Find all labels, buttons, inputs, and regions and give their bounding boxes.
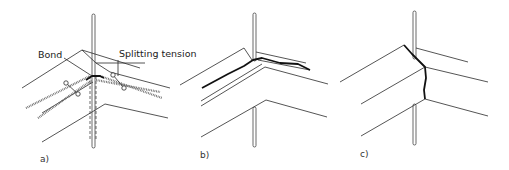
bond-strut-lower: [38, 80, 92, 118]
tie-node-icon: [122, 86, 126, 90]
column-rebar: [92, 14, 95, 148]
beam-bottom-edge: [201, 100, 327, 137]
panel-b: b): [180, 13, 328, 160]
beam-right-edge: [96, 63, 170, 88]
bond-label: Bond: [38, 49, 62, 60]
beam-right-top-edge: [258, 60, 310, 70]
splitting-tension-label: Splitting tension: [119, 48, 197, 59]
beam-back-edge: [416, 48, 468, 62]
beam-top-edge: [340, 45, 404, 82]
beam-bottom-edge: [42, 104, 168, 142]
panel-a: Bond Splitting tension a): [22, 14, 197, 164]
bond-leader-line: [64, 58, 92, 76]
beam-left-lower-edge: [201, 64, 262, 101]
figure-canvas: Bond Splitting tension a) b) c): [0, 0, 509, 170]
panel-c: c): [340, 11, 488, 159]
beam-bottom-edge: [361, 99, 488, 136]
beam-mid-edge: [201, 67, 328, 106]
column-rebar-bottom: [253, 107, 256, 147]
splitting-strut-lower: [96, 80, 160, 92]
column-rebar-bottom: [413, 104, 416, 145]
tie-node-icon: [76, 92, 80, 96]
tie-node-icon: [64, 81, 68, 85]
panel-label-a: a): [40, 154, 49, 164]
tie-node-icon: [111, 73, 115, 77]
column-rebar-top: [253, 13, 256, 61]
splitting-strut-upper: [100, 76, 162, 98]
panel-label-b: b): [200, 150, 209, 160]
column-rebar-top: [413, 11, 416, 59]
panel-label-c: c): [360, 149, 368, 159]
